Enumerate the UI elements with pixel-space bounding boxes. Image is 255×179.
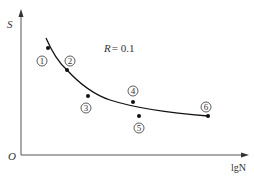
y-axis-label: S <box>7 18 13 30</box>
data-point-3 <box>86 94 90 98</box>
data-point-6 <box>206 114 210 118</box>
r-value: = 0.1 <box>112 42 135 54</box>
r-variable: R <box>103 42 111 54</box>
svg-text:5: 5 <box>137 123 142 133</box>
point-label-3: 3 <box>81 103 91 113</box>
point-label-4: 4 <box>128 86 138 96</box>
x-axis-arrow-icon <box>241 153 249 158</box>
point-label-5: 5 <box>134 123 144 133</box>
s-lgn-chart: S O lgN R= 0.1 1 2 3 4 5 6 <box>0 0 255 179</box>
svg-text:2: 2 <box>68 56 73 66</box>
svg-text:4: 4 <box>131 86 136 96</box>
point-label-6: 6 <box>201 102 211 112</box>
origin-label: O <box>8 150 16 162</box>
svg-text:3: 3 <box>84 103 89 113</box>
y-axis-arrow-icon <box>19 9 24 17</box>
data-point-4 <box>131 100 135 104</box>
data-point-1 <box>46 46 50 50</box>
x-axis-label: lgN <box>231 162 246 173</box>
r-annotation: R= 0.1 <box>103 42 134 54</box>
svg-text:1: 1 <box>40 56 45 66</box>
data-point-2 <box>65 68 69 72</box>
data-point-5 <box>137 114 141 118</box>
point-label-2: 2 <box>65 56 75 66</box>
svg-text:6: 6 <box>204 102 209 112</box>
point-label-1: 1 <box>37 56 47 66</box>
